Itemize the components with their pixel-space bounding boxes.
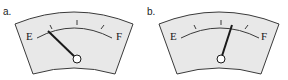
gauge-b-drawing: E F [144, 0, 288, 80]
gauge-a-empty-label: E [26, 30, 33, 42]
gauge-b-full-label: F [261, 30, 267, 42]
fuel-gauge-a: a. E F [0, 0, 144, 80]
fuel-gauge-b: b. E F [144, 0, 288, 80]
gauge-b-empty-label: E [170, 30, 177, 42]
gauge-a-drawing: E F [0, 0, 144, 80]
gauge-a-pivot [73, 55, 81, 63]
gauge-a-full-label: F [116, 30, 122, 42]
gauge-b-pivot [217, 55, 225, 63]
